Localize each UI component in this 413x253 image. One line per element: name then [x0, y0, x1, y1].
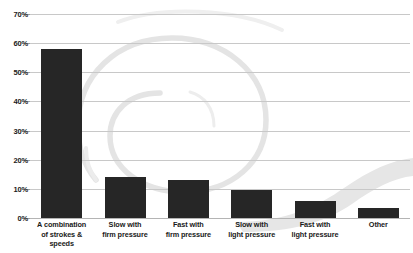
category-label-line: Other: [347, 220, 410, 230]
category-label-line: firm pressure: [93, 230, 156, 240]
x-axis-line: [30, 218, 410, 219]
y-axis-tick-label: 20%: [2, 155, 28, 164]
category-label: A combinationof strokes &speeds: [30, 220, 93, 249]
category-label: Slow withfirm pressure: [93, 220, 156, 239]
category-label-line: Fast with: [157, 220, 220, 230]
category-label-line: A combination: [30, 220, 93, 230]
bars-layer: [30, 14, 410, 218]
y-axis-labels: 0%10%20%30%40%50%60%70%: [0, 14, 28, 218]
category-label-line: Fast with: [283, 220, 346, 230]
bar: [41, 49, 82, 218]
bar: [231, 190, 272, 218]
y-axis-tick-label: 0%: [2, 214, 28, 223]
y-axis-tick-label: 50%: [2, 68, 28, 77]
category-label: Other: [347, 220, 410, 230]
category-label-line: light pressure: [220, 230, 283, 240]
category-label: Fast withlight pressure: [283, 220, 346, 239]
category-label: Fast withfirm pressure: [157, 220, 220, 239]
category-label: Slow withlight pressure: [220, 220, 283, 239]
category-label-line: speeds: [30, 239, 93, 249]
y-axis-tick-label: 40%: [2, 97, 28, 106]
category-label-line: of strokes &: [30, 230, 93, 240]
bar: [105, 177, 146, 218]
y-axis-tick-label: 10%: [2, 184, 28, 193]
bar: [295, 201, 336, 218]
y-axis-tick-label: 70%: [2, 10, 28, 19]
bar: [168, 180, 209, 218]
y-axis-tick-label: 60%: [2, 39, 28, 48]
y-axis-tick-label: 30%: [2, 126, 28, 135]
bar: [358, 208, 399, 218]
category-label-line: Slow with: [220, 220, 283, 230]
x-axis-category-labels: A combinationof strokes &speedsSlow with…: [30, 220, 410, 253]
category-label-line: light pressure: [283, 230, 346, 240]
category-label-line: firm pressure: [157, 230, 220, 240]
bar-chart: 0%10%20%30%40%50%60%70% A combinationof …: [0, 0, 413, 253]
category-label-line: Slow with: [93, 220, 156, 230]
